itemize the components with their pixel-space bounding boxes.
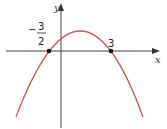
root-left-denominator: 2: [38, 36, 44, 47]
parabola-graph: y x − 3 2 3: [0, 0, 167, 129]
root-left-numerator: 3: [38, 21, 44, 32]
root-left-sign: −: [28, 24, 36, 35]
root-right-label: 3: [108, 38, 114, 49]
x-axis-label: x: [155, 54, 161, 65]
y-axis-label: y: [53, 2, 60, 13]
root-point-right: [109, 49, 114, 54]
root-point-left: [47, 49, 52, 54]
parabola-curve: [16, 31, 143, 117]
